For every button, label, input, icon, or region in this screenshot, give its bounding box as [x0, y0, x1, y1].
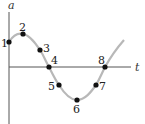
- point-1-label: 1: [1, 37, 8, 50]
- point-2-label: 2: [19, 21, 26, 34]
- point-7-label: 7: [99, 80, 106, 93]
- horizontal-axis-label: t: [135, 61, 140, 74]
- point-5-marker: [56, 82, 61, 87]
- vertical-axis-label: a: [8, 0, 15, 12]
- point-6-marker: [74, 97, 79, 102]
- point-7-marker: [93, 82, 98, 87]
- point-6-label: 6: [73, 103, 80, 116]
- point-4-label: 4: [51, 54, 58, 67]
- motion-graph: a t 12345678: [0, 0, 145, 124]
- point-8-label: 8: [98, 54, 105, 67]
- point-5-label: 5: [48, 80, 55, 93]
- point-3-label: 3: [43, 42, 50, 55]
- point-3-marker: [37, 47, 42, 52]
